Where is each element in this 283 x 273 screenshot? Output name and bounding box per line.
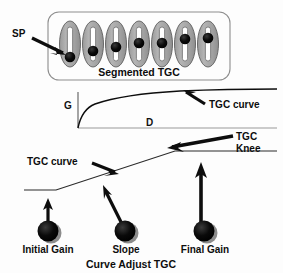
- slider-5-knob[interactable]: [157, 38, 168, 49]
- segmented-tgc-panel: Segmented TGC SP: [12, 12, 230, 80]
- curve-adjust-tgc-panel: TGC curve TGC Knee: [22, 131, 277, 270]
- tgc-diagram-figure: Segmented TGC SP G D TGC curve TGC curve: [0, 0, 283, 273]
- slider-5[interactable]: [152, 21, 173, 67]
- knob-final-gain-label: Final Gain: [181, 244, 229, 255]
- slider-6[interactable]: [175, 21, 196, 67]
- tgc-plot-annotation-arrow-head: [183, 90, 196, 100]
- tgc-plot-annotation-label: TGC curve: [209, 99, 260, 110]
- slider-4[interactable]: [129, 21, 150, 67]
- slider-2-knob[interactable]: [88, 46, 99, 57]
- knob-slope-label: Slope: [112, 244, 140, 255]
- slider-3[interactable]: [106, 21, 127, 67]
- slider-3-knob[interactable]: [111, 42, 122, 53]
- tgc-curve-plot: G D TGC curve: [64, 89, 277, 128]
- tgc-plot-ylabel: G: [64, 100, 72, 111]
- knob-slope-dial[interactable]: [115, 221, 136, 242]
- slider-6-knob[interactable]: [180, 34, 191, 45]
- slider-7-knob[interactable]: [203, 33, 214, 44]
- knob-initial-gain-label: Initial Gain: [22, 244, 73, 255]
- curve-adjust-caption: Curve Adjust TGC: [86, 258, 176, 270]
- slider-2[interactable]: [83, 21, 104, 67]
- knob-initial-gain-dial[interactable]: [38, 221, 59, 242]
- slider-1-knob[interactable]: [65, 52, 76, 63]
- knob-initial-gain[interactable]: [38, 221, 62, 244]
- segmented-tgc-caption: Segmented TGC: [98, 66, 180, 78]
- knob-final-gain-dial[interactable]: [194, 221, 215, 242]
- slider-4-knob[interactable]: [134, 38, 145, 49]
- knee-arrow-shaft: [172, 136, 233, 147]
- knee-label-line2: Knee: [236, 143, 261, 154]
- knee-label-line1: TGC: [236, 131, 257, 142]
- tgc-plot-xlabel: D: [146, 117, 153, 128]
- slope-arrow-shaft: [106, 192, 122, 224]
- slider-1[interactable]: [60, 21, 81, 67]
- knob-final-gain[interactable]: [194, 221, 218, 244]
- slider-7-slot: [205, 27, 210, 61]
- slider-7[interactable]: [198, 21, 219, 67]
- diagram-canvas: Segmented TGC SP G D TGC curve TGC curve: [0, 0, 283, 273]
- knob-slope[interactable]: [115, 221, 139, 244]
- sp-label: SP: [12, 28, 26, 39]
- curve-adjust-curve-label: TGC curve: [27, 156, 78, 167]
